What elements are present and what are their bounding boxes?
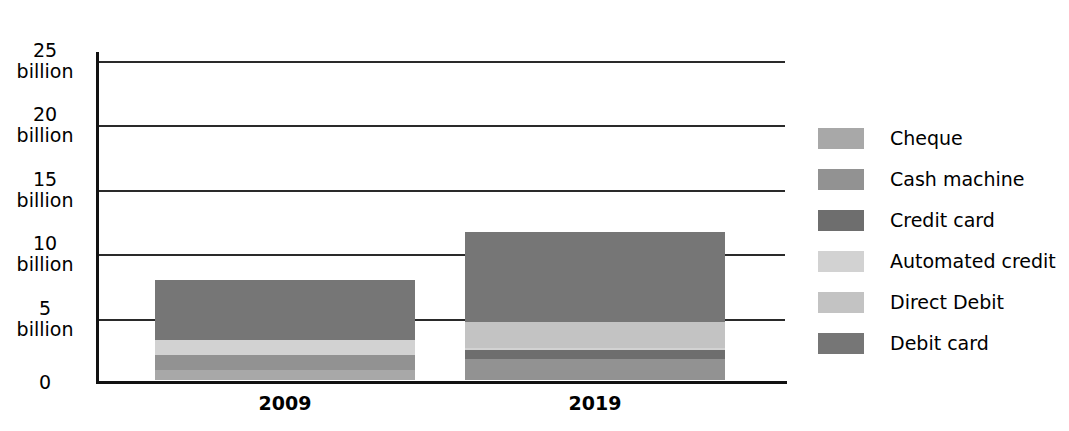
y-tick-value: 10 [2, 233, 88, 254]
y-tick-value: 20 [2, 104, 88, 125]
y-axis-line [96, 52, 99, 384]
legend-swatch-icon [818, 251, 864, 272]
y-axis-tick-25: 25billion [2, 40, 88, 82]
x-axis-label-2019: 2019 [465, 392, 725, 414]
legend-label: Debit card [890, 333, 989, 354]
y-tick-value: 0 [2, 372, 88, 393]
legend-item-cash-machine: Cash machine [818, 159, 1058, 200]
legend-label: Credit card [890, 210, 995, 231]
legend-item-credit-card: Credit card [818, 200, 1058, 241]
y-axis-tick-15: 15billion [2, 169, 88, 211]
legend: ChequeCash machineCredit cardAutomated c… [818, 118, 1058, 364]
legend-swatch-icon [818, 210, 864, 231]
legend-label: Cheque [890, 128, 963, 149]
legend-item-automated-credit: Automated credit [818, 241, 1058, 282]
bar-2009 [155, 0, 415, 383]
legend-item-cheque: Cheque [818, 118, 1058, 159]
y-axis-tick-0: 0 [2, 372, 88, 393]
legend-swatch-icon [818, 292, 864, 313]
stacked-bar-chart: 25billion20billion15billion10billion5bil… [0, 0, 1069, 431]
bar-2019 [465, 0, 725, 383]
legend-label: Automated credit [890, 251, 1056, 272]
legend-label: Direct Debit [890, 292, 1004, 313]
y-tick-unit: billion [2, 319, 88, 340]
bar-segment-2019-cash-machine [465, 359, 725, 380]
y-tick-unit: billion [2, 254, 88, 275]
legend-item-debit-card: Debit card [818, 323, 1058, 364]
y-tick-value: 25 [2, 40, 88, 61]
y-tick-unit: billion [2, 61, 88, 82]
x-axis-label-2009: 2009 [155, 392, 415, 414]
y-axis-tick-20: 20billion [2, 104, 88, 146]
bar-segment-2009-cheque [155, 370, 415, 380]
legend-label: Cash machine [890, 169, 1025, 190]
y-axis-tick-10: 10billion [2, 233, 88, 275]
legend-swatch-icon [818, 169, 864, 190]
y-axis-tick-5: 5billion [2, 298, 88, 340]
legend-swatch-icon [818, 333, 864, 354]
y-tick-value: 5 [2, 298, 88, 319]
y-tick-value: 15 [2, 169, 88, 190]
legend-item-direct-debit: Direct Debit [818, 282, 1058, 323]
y-tick-unit: billion [2, 190, 88, 211]
y-tick-unit: billion [2, 125, 88, 146]
legend-swatch-icon [818, 128, 864, 149]
